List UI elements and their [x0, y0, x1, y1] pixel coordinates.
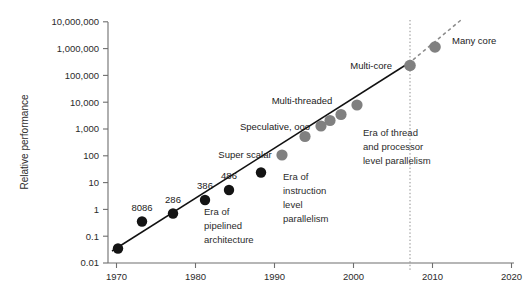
label-multi-threaded: Multi-threaded — [272, 95, 333, 106]
x-tick-label-2010: 2010 — [422, 271, 443, 282]
data-point-286 — [168, 208, 178, 218]
y-tick-label-0.1: 0.1 — [86, 231, 99, 242]
label-speculative-ooo: Speculative, ooo — [240, 121, 310, 132]
y-tick-label-1000: 1,000 — [75, 123, 99, 134]
label-8086: 8086 — [131, 202, 152, 213]
y-tick-label-0.01: 0.01 — [81, 257, 100, 268]
y-tick-label-10: 10 — [88, 177, 99, 188]
label-many-core: Many core — [452, 35, 496, 46]
y-tick-label-10000000: 10,000,000 — [51, 16, 99, 27]
x-tick-label-2020: 2020 — [501, 271, 522, 282]
era-instruction-line-3: level — [283, 199, 303, 210]
x-tick-label-1990: 1990 — [264, 271, 285, 282]
label-386: 386 — [197, 180, 213, 191]
data-point-multi-threaded — [351, 99, 362, 110]
era-thread-line-2: and processor — [363, 141, 423, 152]
y-tick-label-100000: 100,000 — [65, 70, 99, 81]
label-multi-core: Multi-core — [350, 60, 392, 71]
y-tick-label-10000: 10,000 — [70, 97, 99, 108]
era-instruction-line-1: Era of — [283, 171, 309, 182]
era-instruction-line-2: instruction — [283, 185, 326, 196]
label-486: 486 — [221, 170, 237, 181]
y-tick-label-100: 100 — [83, 150, 99, 161]
era-thread-line-3: level parallelism — [363, 155, 431, 166]
data-point-super-scalar — [276, 149, 287, 160]
data-point-2000 — [335, 109, 346, 120]
label-super-scalar: Super scalar — [218, 149, 271, 160]
era-instruction-line-4: parallelism — [283, 213, 328, 224]
data-point-speculative-ooo — [324, 115, 335, 126]
x-tick-label-1980: 1980 — [185, 271, 206, 282]
data-point-1989 — [256, 167, 266, 177]
data-point-1996 — [299, 131, 310, 142]
label-286: 286 — [165, 194, 181, 205]
y-tick-label-1: 1 — [94, 204, 99, 215]
y-axis-title: Relative performance — [19, 94, 30, 189]
y-tick-label-1000000: 1,000,000 — [57, 43, 99, 54]
era-pipelined-line-1: Era of — [204, 206, 230, 217]
data-point-4004 — [113, 243, 123, 253]
data-point-many-core — [429, 41, 441, 53]
data-point-8086 — [137, 216, 147, 226]
data-point-486 — [224, 185, 234, 195]
performance-trend-chart: 0.01 0.1 1 10 100 1,000 10,000 100,000 1… — [0, 0, 527, 303]
data-point-multi-core — [404, 60, 416, 72]
era-thread-line-1: Era of thread — [363, 127, 418, 138]
data-point-386 — [200, 195, 210, 205]
era-pipelined-line-3: architecture — [204, 234, 254, 245]
x-tick-label-2000: 2000 — [343, 271, 364, 282]
x-tick-label-1970: 1970 — [106, 271, 127, 282]
era-pipelined-line-2: pipelined — [204, 220, 242, 231]
